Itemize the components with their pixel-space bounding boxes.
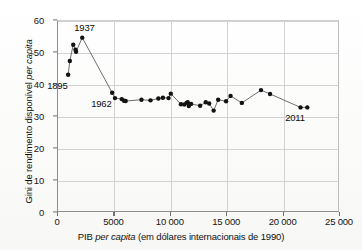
x-axis-tick-mark [170, 212, 171, 216]
data-point [268, 92, 272, 96]
data-point [123, 99, 127, 103]
data-point [298, 105, 302, 109]
data-point [189, 102, 193, 106]
data-point [228, 94, 232, 98]
y-axis-tick-label: 10 [4, 175, 44, 186]
chart-figure: Gini de rendimento disponível per capita… [0, 0, 362, 250]
data-point [139, 98, 143, 102]
data-point [216, 98, 220, 102]
y-axis-tick-label: 40 [4, 79, 44, 90]
x-axis-title-post: (em dólares internacionais de 1990) [135, 231, 284, 242]
x-axis-tick-label: 10 000 [156, 216, 184, 227]
x-axis-tick-mark [283, 212, 284, 216]
data-point [161, 96, 165, 100]
data-point-annotation: 1895 [47, 80, 67, 91]
x-axis-tick-label: 20 000 [269, 216, 297, 227]
x-axis-tick-mark [113, 212, 114, 216]
data-point [259, 88, 263, 92]
x-axis-tick-label: 0 [54, 216, 59, 227]
data-point [166, 96, 170, 100]
x-axis-tick-label: 5000 [103, 216, 123, 227]
x-axis-tick-label: 15 000 [212, 216, 240, 227]
data-point [74, 50, 78, 54]
data-point [148, 98, 152, 102]
y-axis-tick-label: 60 [4, 15, 44, 26]
data-point [240, 101, 244, 105]
data-point [169, 91, 173, 95]
y-axis-tick-label: 20 [4, 143, 44, 154]
data-point [305, 105, 309, 109]
data-point [71, 42, 75, 46]
x-axis-title-italic: per capita [95, 231, 135, 242]
data-point [156, 96, 160, 100]
data-point-annotation: 1962 [91, 98, 111, 109]
y-axis-tick-label: 0 [4, 207, 44, 218]
x-axis-tick-mark [226, 212, 227, 216]
data-point [207, 101, 211, 105]
data-point [224, 99, 228, 103]
data-point [68, 59, 72, 63]
data-point [80, 35, 84, 39]
plot-area: 1895193719622011 [57, 20, 339, 212]
x-axis-title: PIB per capita (em dólares internacionai… [0, 231, 362, 242]
x-axis-tick-mark [57, 212, 58, 216]
y-axis-tick-label: 30 [4, 111, 44, 122]
data-point-annotation: 2011 [285, 112, 305, 123]
data-point [211, 108, 215, 112]
x-axis-tick-mark [339, 212, 340, 216]
data-point-annotation: 1937 [74, 22, 94, 33]
data-point [66, 73, 70, 77]
data-point [110, 90, 114, 94]
data-point [198, 104, 202, 108]
data-point [113, 96, 117, 100]
x-axis-tick-label: 25 000 [325, 216, 353, 227]
x-axis-title-pre: PIB [78, 231, 95, 242]
y-axis-tick-label: 50 [4, 47, 44, 58]
y-axis-tick-group: 0102030405060 [0, 0, 54, 250]
